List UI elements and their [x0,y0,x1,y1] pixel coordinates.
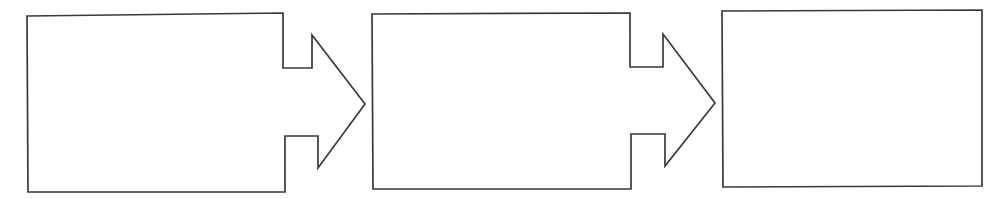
stage-3-box[interactable] [722,10,982,187]
stage-1-box-with-arrow[interactable] [27,13,365,192]
diagram-canvas [0,0,997,199]
process-flow-diagram [0,0,997,199]
stage-2-box-with-arrow[interactable] [372,13,715,189]
